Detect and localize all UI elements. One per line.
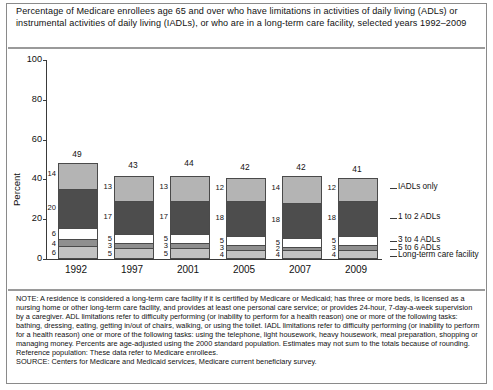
x-tick-label: 2009 — [328, 264, 384, 275]
bar-total-label: 49 — [53, 149, 101, 159]
bar-segment[interactable] — [59, 240, 97, 247]
y-tick-mark — [43, 259, 47, 260]
bar-segment-label: 3 — [96, 242, 112, 250]
stacked-bar[interactable] — [226, 178, 266, 259]
bar-segment-label: 17 — [152, 213, 168, 221]
x-tick-label: 1997 — [104, 264, 160, 275]
chart-page: Percentage of Medicare enrollees age 65 … — [0, 0, 493, 390]
bar-segment[interactable] — [115, 177, 153, 202]
chart-title: Percentage of Medicare enrollees age 65 … — [16, 6, 482, 29]
bar-segment[interactable] — [115, 202, 153, 235]
legend-leader-line — [390, 256, 397, 257]
bar-segment-label: 4 — [208, 251, 224, 259]
chart-legend: IADLs only1 to 2 ADLs3 to 4 ADLs5 to 6 A… — [390, 60, 490, 260]
bar-segment[interactable] — [59, 164, 97, 191]
legend-item[interactable]: 1 to 2 ADLs — [398, 213, 440, 221]
bar-segment[interactable] — [115, 249, 153, 258]
legend-leader-line — [390, 249, 397, 250]
bar-segment-label: 14 — [40, 170, 56, 178]
bar-segment-label: 3 — [208, 244, 224, 252]
x-tick-label: 2007 — [272, 264, 328, 275]
x-tick-label: 2001 — [160, 264, 216, 275]
bar-segment-label: 18 — [320, 214, 336, 222]
legend-item[interactable]: IADLs only — [398, 183, 438, 191]
bar-segment-label: 3 — [320, 244, 336, 252]
bar-segment-label: 18 — [264, 216, 280, 224]
bar-segment-label: 5 — [96, 235, 112, 243]
source-text: SOURCE: Centers for Medicare and Medicai… — [16, 357, 480, 366]
bar-segment-label: 18 — [208, 214, 224, 222]
bar-segment[interactable] — [59, 190, 97, 229]
y-tick-label: 100 — [18, 55, 42, 64]
bar-segment-label: 4 — [40, 240, 56, 248]
bar-total-label: 44 — [165, 158, 213, 168]
bar-segment-label: 20 — [40, 204, 56, 212]
bar-segment-label: 12 — [208, 184, 224, 192]
y-tick-label: 80 — [18, 95, 42, 104]
note-text: NOTE: A residence is considered a long-t… — [16, 294, 480, 357]
legend-item[interactable]: Long-term care facility — [398, 251, 479, 259]
bar-segment-label: 5 — [152, 235, 168, 243]
bar-segment-label: 5 — [152, 250, 168, 258]
bar-segment[interactable] — [283, 251, 321, 258]
bar-segment[interactable] — [171, 235, 209, 244]
bar-segment-label: 6 — [40, 249, 56, 257]
x-tick-label: 2005 — [216, 264, 272, 275]
bar-segment-label: 14 — [264, 184, 280, 192]
bar-segment-label: 5 — [320, 237, 336, 245]
bar-segment[interactable] — [171, 202, 209, 235]
bar-series-container: 4964620144353517134453517134243518124242… — [46, 60, 382, 259]
note-divider — [8, 289, 485, 291]
x-tick-label: 1992 — [48, 264, 104, 275]
bar-segment[interactable] — [171, 177, 209, 202]
bar-segment[interactable] — [59, 229, 97, 240]
bar-total-label: 43 — [109, 160, 157, 170]
y-tick-label: 60 — [18, 135, 42, 144]
bar-total-label: 42 — [221, 162, 269, 172]
bar-segment[interactable] — [227, 179, 265, 202]
bar-total-label: 42 — [277, 162, 325, 172]
note-block: NOTE: A residence is considered a long-t… — [16, 294, 480, 366]
bar-segment[interactable] — [115, 235, 153, 244]
bar-segment[interactable] — [339, 202, 377, 237]
bar-segment[interactable] — [227, 237, 265, 246]
title-divider — [8, 47, 485, 49]
bar-segment-label: 4 — [320, 251, 336, 259]
plot-area: Percent 020406080100 4964620144353517134… — [0, 52, 493, 284]
bar-segment-label: 13 — [152, 183, 168, 191]
bar-segment[interactable] — [227, 202, 265, 237]
bar-segment-label: 3 — [152, 242, 168, 250]
bar-segment[interactable] — [283, 239, 321, 248]
legend-leader-line — [390, 218, 397, 219]
stacked-bar[interactable] — [338, 178, 378, 259]
y-tick-label: 20 — [18, 214, 42, 223]
legend-leader-line — [390, 188, 397, 189]
stacked-bar[interactable] — [282, 176, 322, 259]
bar-segment-label: 17 — [96, 213, 112, 221]
bar-segment-label: 6 — [40, 230, 56, 238]
bar-segment-label: 5 — [96, 250, 112, 258]
bar-segment-label: 5 — [208, 237, 224, 245]
bar-segment-label: 2 — [264, 245, 280, 253]
y-tick-label: 0 — [18, 254, 42, 263]
y-tick-label: 40 — [18, 174, 42, 183]
stacked-bar[interactable] — [58, 163, 98, 259]
legend-leader-line — [390, 241, 397, 242]
bar-segment[interactable] — [339, 237, 377, 246]
bar-segment-label: 5 — [264, 239, 280, 247]
bar-segment[interactable] — [227, 251, 265, 258]
stacked-bar[interactable] — [170, 176, 210, 259]
bar-segment[interactable] — [339, 251, 377, 258]
x-axis-line — [46, 259, 382, 260]
bar-segment[interactable] — [171, 249, 209, 258]
bar-segment[interactable] — [339, 179, 377, 202]
bar-segment[interactable] — [283, 177, 321, 204]
stacked-bar[interactable] — [114, 176, 154, 259]
bar-segment-label: 13 — [96, 183, 112, 191]
bar-segment-label: 12 — [320, 184, 336, 192]
bar-segment[interactable] — [59, 247, 97, 258]
bar-total-label: 41 — [333, 164, 381, 174]
bar-segment[interactable] — [283, 204, 321, 239]
